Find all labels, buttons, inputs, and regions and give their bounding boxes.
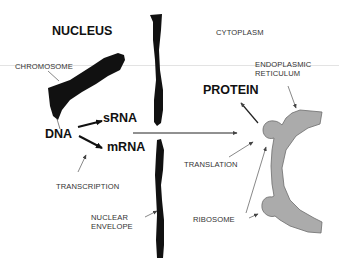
translation-pointer <box>229 142 253 157</box>
srna-label: sRNA <box>103 111 137 125</box>
endoplasmic-reticulum-shape <box>262 110 322 233</box>
translation-label: TRANSLATION <box>184 160 238 169</box>
ribosome-pointer-lower <box>249 214 258 218</box>
chromosome-label: CHROMOSOME <box>15 62 73 71</box>
transcription-label: TRANSCRIPTION <box>56 182 119 191</box>
nuclear-envelope-bottom <box>155 139 164 258</box>
protein-arrow <box>241 103 258 123</box>
protein-label: PROTEIN <box>203 83 259 97</box>
nuclear-envelope-top <box>150 14 163 126</box>
er-pointer <box>288 86 296 108</box>
chromosome-pointer <box>48 71 59 81</box>
nucleus-heading: NUCLEUS <box>52 24 112 38</box>
er-label-line1: ENDOPLASMIC <box>255 60 311 69</box>
nuclear-envelope-label-line1: NUCLEAR <box>91 213 128 222</box>
er-label-line2: RETICULUM <box>255 69 300 78</box>
dna-to-srna-arrow <box>78 121 102 127</box>
cell-diagram: NUCLEUS CYTOPLASM CHROMOSOME DNA sRNA mR… <box>0 0 339 265</box>
nuclear-envelope-label-line2: ENVELOPE <box>91 222 133 231</box>
nuclear-envelope-pointer <box>145 211 157 217</box>
dna-to-mrna-arrow <box>79 136 102 148</box>
dna-label: DNA <box>45 127 72 141</box>
mrna-label: mRNA <box>107 140 145 154</box>
ribosome-label: RIBOSOME <box>193 215 235 224</box>
transcription-pointer <box>78 155 86 172</box>
cytoplasm-label: CYTOPLASM <box>216 28 264 37</box>
